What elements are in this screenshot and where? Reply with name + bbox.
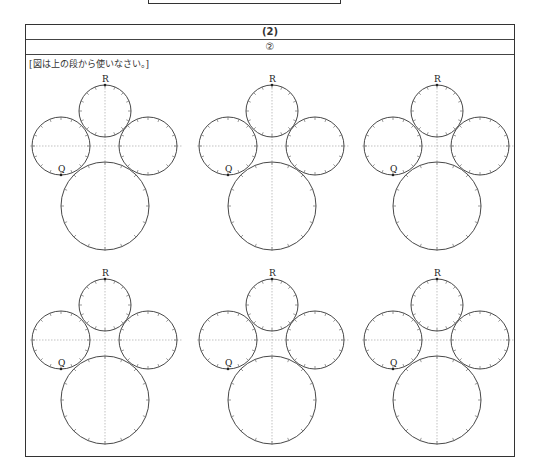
figures-canvas: RQRQRQRQRQRQ xyxy=(0,0,537,475)
circle-figure: RQ xyxy=(30,268,183,445)
circle-figure: RQ xyxy=(362,268,515,445)
circle-figure: RQ xyxy=(197,268,350,445)
circle-figure: RQ xyxy=(362,74,515,251)
point-label-q: Q xyxy=(225,164,232,174)
point-label-r: R xyxy=(102,74,109,84)
point-label-r: R xyxy=(269,74,276,84)
point-label-q: Q xyxy=(225,358,232,368)
circle-figure: RQ xyxy=(197,74,350,251)
circle-figure: RQ xyxy=(30,74,183,251)
point-label-q: Q xyxy=(390,164,397,174)
point-label-q: Q xyxy=(390,358,397,368)
point-label-r: R xyxy=(434,74,441,84)
point-label-r: R xyxy=(434,268,441,278)
point-label-r: R xyxy=(269,268,276,278)
point-label-q: Q xyxy=(58,164,65,174)
point-label-r: R xyxy=(102,268,109,278)
point-label-q: Q xyxy=(58,358,65,368)
